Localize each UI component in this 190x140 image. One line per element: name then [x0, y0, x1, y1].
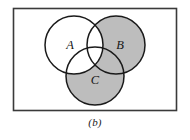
figure-caption: (b)	[0, 116, 190, 128]
venn-diagram-canvas: A B C	[0, 0, 190, 118]
venn-figure: A B C (b)	[0, 0, 190, 140]
set-label-a: A	[65, 38, 74, 52]
set-label-b: B	[116, 38, 124, 52]
set-label-c: C	[91, 73, 100, 87]
